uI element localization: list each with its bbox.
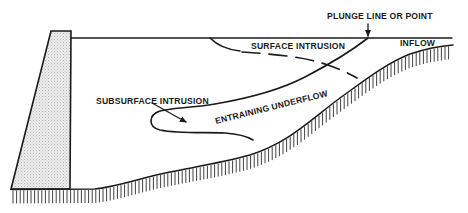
label-subsurface-intrusion: SUBSURFACE INTRUSION bbox=[96, 96, 209, 106]
label-inflow: INFLOW bbox=[400, 38, 436, 48]
label-surface-intrusion: SURFACE INTRUSION bbox=[251, 41, 345, 51]
dam bbox=[11, 31, 71, 189]
diagram-canvas: PLUNGE LINE OR POINT SURFACE INTRUSION I… bbox=[0, 0, 468, 213]
surface-intrusion-dashed bbox=[242, 52, 357, 78]
label-plunge: PLUNGE LINE OR POINT bbox=[327, 11, 433, 21]
surface-intrusion-boundary bbox=[210, 38, 240, 51]
ground-hatching bbox=[13, 46, 449, 203]
